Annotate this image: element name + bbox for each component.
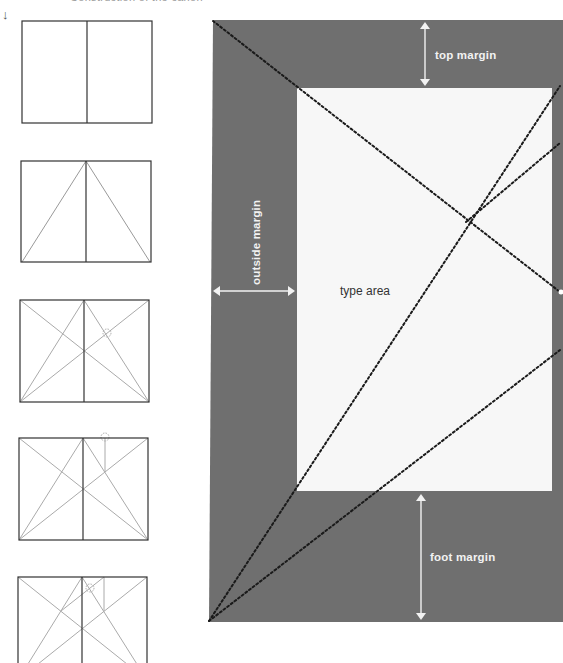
outside-margin-label: outside margin xyxy=(250,200,262,285)
foot-margin-label: foot margin xyxy=(430,551,495,563)
thumbnail-step-3 xyxy=(20,300,149,402)
thumbnail-step-4 xyxy=(19,433,148,540)
page-panel xyxy=(209,20,563,622)
top-margin-label: top margin xyxy=(435,49,496,61)
type-area-label: type area xyxy=(340,284,390,298)
canon-diagram xyxy=(0,0,563,663)
thumbnail-step-1 xyxy=(22,21,152,123)
thumbnail-step-2 xyxy=(21,161,151,262)
type-area-rect xyxy=(297,88,552,491)
thumbnail-step-5 xyxy=(18,577,147,663)
